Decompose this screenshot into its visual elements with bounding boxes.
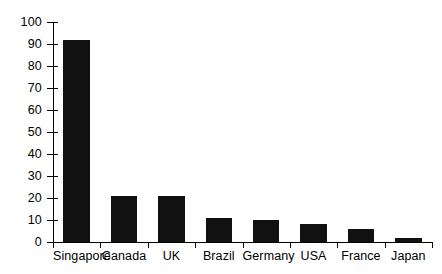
x-axis-tick bbox=[243, 242, 244, 248]
x-axis-category-label: Germany bbox=[243, 249, 290, 263]
y-axis-tick-label: 80 bbox=[0, 60, 42, 73]
x-axis-tick bbox=[53, 242, 54, 248]
bar bbox=[63, 40, 90, 242]
y-axis-tick-label: 60 bbox=[0, 104, 42, 117]
y-axis-tick-label: 50 bbox=[0, 126, 42, 139]
y-axis-tick-label: 20 bbox=[0, 192, 42, 205]
bar-chart: 0102030405060708090100 SingaporeCanadaUK… bbox=[0, 0, 442, 274]
y-axis-tick-label: 40 bbox=[0, 148, 42, 161]
y-axis-tick-label: 30 bbox=[0, 170, 42, 183]
x-axis-tick bbox=[337, 242, 338, 248]
x-axis-tick bbox=[195, 242, 196, 248]
y-axis-tick-label: 10 bbox=[0, 214, 42, 227]
x-axis-tick bbox=[432, 242, 433, 248]
x-axis-category-label: Canada bbox=[100, 249, 147, 263]
x-axis-category-label: France bbox=[337, 249, 384, 263]
x-axis-category-label: USA bbox=[290, 249, 337, 263]
bar bbox=[206, 218, 233, 242]
x-axis-tick bbox=[100, 242, 101, 248]
y-axis-tick-label: 70 bbox=[0, 82, 42, 95]
x-axis-tick bbox=[385, 242, 386, 248]
x-axis-category-label: Japan bbox=[385, 249, 432, 263]
x-axis-tick bbox=[148, 242, 149, 248]
bar bbox=[348, 229, 375, 242]
bar bbox=[253, 220, 280, 242]
bar bbox=[158, 196, 185, 242]
bar bbox=[300, 224, 327, 242]
x-axis-tick bbox=[290, 242, 291, 248]
y-axis-tick-label: 90 bbox=[0, 38, 42, 51]
x-axis-category-label: Singapore bbox=[53, 249, 100, 263]
x-axis-category-label: UK bbox=[148, 249, 195, 263]
bar-series bbox=[53, 22, 432, 242]
x-axis-category-label: Brazil bbox=[195, 249, 242, 263]
y-axis-tick-label: 0 bbox=[0, 236, 42, 249]
y-axis-tick-label: 100 bbox=[0, 16, 42, 29]
x-axis-labels: SingaporeCanadaUKBrazilGermanyUSAFranceJ… bbox=[53, 249, 432, 267]
bar bbox=[395, 238, 422, 242]
bar bbox=[111, 196, 138, 242]
